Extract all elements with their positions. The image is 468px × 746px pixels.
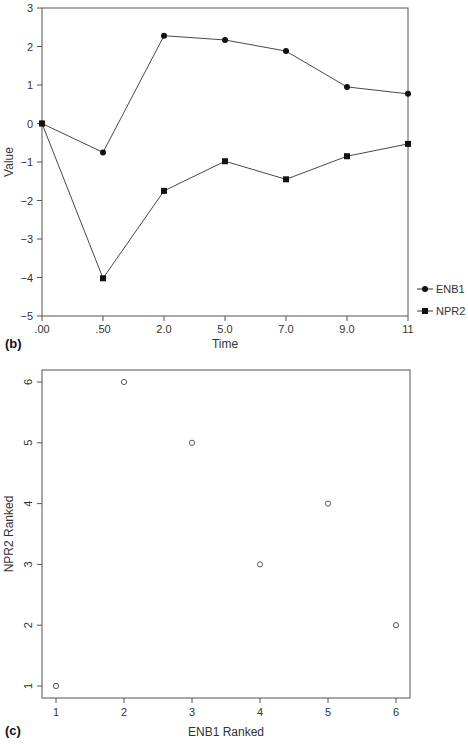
data-point: [325, 501, 330, 506]
y-tick-label: −5: [20, 310, 33, 322]
y-tick-label: −2: [20, 195, 33, 207]
x-tick-label: .00: [34, 323, 49, 335]
scatter-chart-c: 123456 123456 NPR2 Ranked ENB1 Ranked (c…: [2, 370, 410, 739]
data-point: [53, 683, 58, 688]
x-tick-label: 6: [393, 706, 399, 718]
data-point: [161, 188, 167, 194]
y-tick-label: 4: [22, 501, 34, 507]
x-axis-ticks: 123456: [53, 698, 399, 718]
series-lines: [39, 33, 411, 282]
data-point: [121, 379, 126, 384]
data-point: [283, 176, 289, 182]
line-chart-b: 3210−1−2−3−4−5 .00.502.05.07.09.011 Valu…: [2, 2, 465, 351]
data-point: [283, 48, 289, 54]
y-tick-label: −4: [20, 272, 33, 284]
data-point: [39, 121, 45, 127]
legend-marker-circle-icon: [422, 286, 428, 292]
x-tick-label: 5: [325, 706, 331, 718]
figure: 3210−1−2−3−4−5 .00.502.05.07.09.011 Valu…: [0, 0, 468, 746]
data-point: [405, 141, 411, 147]
data-point: [100, 275, 106, 281]
legend-marker-square-icon: [422, 308, 428, 314]
y-axis-ticks: 123456: [22, 379, 42, 689]
data-point: [222, 158, 228, 164]
y-tick-label: 5: [22, 440, 34, 446]
y-axis-label: NPR2 Ranked: [2, 496, 16, 573]
data-point: [393, 623, 398, 628]
x-tick-label: 9.0: [339, 323, 354, 335]
panel-label-c: (c): [5, 723, 21, 738]
y-tick-label: −3: [20, 233, 33, 245]
data-point: [405, 91, 411, 97]
y-axis-ticks: 3210−1−2−3−4−5: [20, 2, 42, 322]
y-tick-label: 0: [27, 118, 33, 130]
data-point: [100, 149, 106, 155]
y-tick-label: 6: [22, 379, 34, 385]
data-point: [344, 84, 350, 90]
data-point: [257, 562, 262, 567]
x-tick-label: 2: [121, 706, 127, 718]
series-line-enb1: [42, 36, 408, 153]
series-line-npr2: [42, 124, 408, 279]
x-tick-label: 7.0: [278, 323, 293, 335]
data-point: [222, 37, 228, 43]
x-axis-label: ENB1 Ranked: [188, 725, 264, 739]
y-tick-label: 1: [27, 79, 33, 91]
x-tick-label: 2.0: [156, 323, 171, 335]
data-point: [344, 153, 350, 159]
scatter-points: [53, 379, 398, 688]
x-tick-label: 4: [257, 706, 263, 718]
data-point: [161, 33, 167, 39]
y-tick-label: −1: [20, 156, 33, 168]
plot-frame: [42, 370, 410, 698]
y-tick-label: 3: [22, 561, 34, 567]
x-tick-label: 1: [53, 706, 59, 718]
legend-label: NPR2: [436, 305, 465, 317]
data-point: [189, 440, 194, 445]
y-tick-label: 2: [22, 622, 34, 628]
x-tick-label: 5.0: [217, 323, 232, 335]
panel-label-b: (b): [5, 336, 22, 351]
x-tick-label: .50: [95, 323, 110, 335]
x-axis-ticks: .00.502.05.07.09.011: [34, 316, 413, 335]
y-axis-label: Value: [2, 147, 16, 177]
legend-label: ENB1: [436, 283, 465, 295]
x-tick-label: 3: [189, 706, 195, 718]
x-axis-label: Time: [212, 337, 239, 351]
y-tick-label: 3: [27, 2, 33, 14]
legend: ENB1NPR2: [417, 283, 465, 317]
x-tick-label: 11: [402, 323, 413, 335]
y-tick-label: 1: [22, 683, 34, 689]
y-tick-label: 2: [27, 41, 33, 53]
